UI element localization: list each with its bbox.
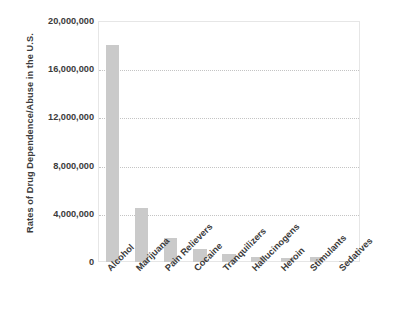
y-tick-label: 4,000,000 [4,209,94,219]
y-tick-label: 12,000,000 [4,112,94,122]
bars-group [98,21,360,262]
y-axis-title: Rates of Drug Dependence/Abuse in the U.… [25,8,35,258]
bar [106,45,119,262]
bar-chart: Rates of Drug Dependence/Abuse in the U.… [0,0,403,335]
y-tick-label: 8,000,000 [4,161,94,171]
y-tick-label: 0 [4,257,94,267]
y-tick-label: 20,000,000 [4,16,94,26]
y-tick-label: 16,000,000 [4,64,94,74]
x-axis-tick-labels: AlcoholMarijuanaPain RelieversCocaineTra… [98,262,360,335]
